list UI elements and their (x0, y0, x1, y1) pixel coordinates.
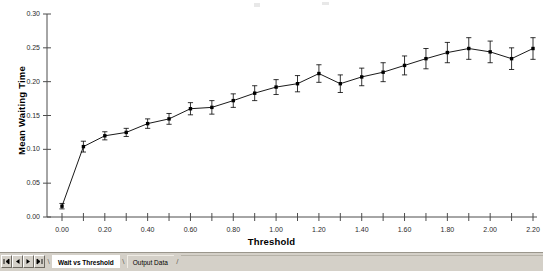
data-point-marker[interactable] (424, 57, 427, 60)
data-point-marker[interactable] (467, 47, 470, 50)
data-point-marker[interactable] (103, 134, 106, 137)
scan-artifact (322, 2, 329, 5)
sheet-tab-separator: \ (120, 255, 127, 268)
sheet-tab-label: Output Data (133, 259, 168, 266)
y-tick-label: 0.15 (16, 112, 40, 119)
data-point-marker[interactable] (253, 91, 256, 94)
data-point-marker[interactable] (317, 72, 320, 75)
chart-plot-area: Mean Waiting Time Threshold 0.000.050.10… (0, 0, 543, 252)
x-tick-label: 0.80 (217, 226, 249, 233)
sheet-tab-output-data[interactable]: Output Data (127, 255, 174, 268)
x-tick-label: 1.40 (346, 226, 378, 233)
data-point-marker[interactable] (403, 64, 406, 67)
x-tick-label: 0.40 (132, 226, 164, 233)
x-tick-label: 0.60 (174, 226, 206, 233)
x-tick-label: 1.60 (389, 226, 421, 233)
data-series-line (62, 49, 533, 207)
y-tick-label: 0.30 (16, 10, 40, 17)
data-point-marker[interactable] (360, 75, 363, 78)
data-point-marker[interactable] (82, 145, 85, 148)
data-point-marker[interactable] (167, 117, 170, 120)
sheet-nav-buttons (1, 255, 45, 268)
data-point-marker[interactable] (488, 50, 491, 53)
data-point-marker[interactable] (210, 106, 213, 109)
data-point-marker[interactable] (381, 70, 384, 73)
data-point-marker[interactable] (146, 122, 149, 125)
data-point-marker[interactable] (189, 107, 192, 110)
y-tick-label: 0.05 (16, 179, 40, 186)
sheet-tab-separator: \ (45, 255, 52, 268)
data-point-marker[interactable] (339, 82, 342, 85)
y-tick-label: 0.00 (16, 213, 40, 220)
next-sheet-icon[interactable] (23, 255, 34, 268)
y-tick-label: 0.10 (16, 145, 40, 152)
sheet-tab-label: Wait vs Threshold (58, 259, 114, 266)
data-point-marker[interactable] (274, 85, 277, 88)
previous-sheet-icon[interactable] (12, 255, 23, 268)
data-point-marker[interactable] (446, 51, 449, 54)
sheet-tab-wait-vs-threshold[interactable]: Wait vs Threshold (52, 255, 120, 268)
x-tick-label: 2.20 (517, 226, 543, 233)
x-tick-label: 1.80 (431, 226, 463, 233)
y-tick-label: 0.25 (16, 44, 40, 51)
data-point-marker[interactable] (125, 131, 128, 134)
chart-svg (0, 0, 543, 252)
data-point-marker[interactable] (531, 47, 534, 50)
data-point-marker[interactable] (232, 99, 235, 102)
data-point-marker[interactable] (296, 82, 299, 85)
scan-artifact (254, 3, 260, 7)
data-point-marker[interactable] (60, 204, 63, 207)
sheet-tab-filler (181, 255, 543, 269)
last-sheet-icon[interactable] (34, 255, 45, 268)
x-tick-label: 2.00 (474, 226, 506, 233)
x-tick-label: 1.20 (303, 226, 335, 233)
x-tick-label: 1.00 (260, 226, 292, 233)
sheet-tabs: \Wait vs Threshold\Output Data/ (45, 255, 181, 269)
x-tick-label: 0.00 (46, 226, 78, 233)
first-sheet-icon[interactable] (1, 255, 12, 268)
sheet-tab-bar: \Wait vs Threshold\Output Data/ (0, 252, 543, 271)
x-tick-label: 0.20 (89, 226, 121, 233)
sheet-tab-separator: / (174, 255, 181, 268)
data-point-marker[interactable] (510, 57, 513, 60)
y-tick-label: 0.20 (16, 78, 40, 85)
x-axis-title: Threshold (0, 236, 543, 247)
